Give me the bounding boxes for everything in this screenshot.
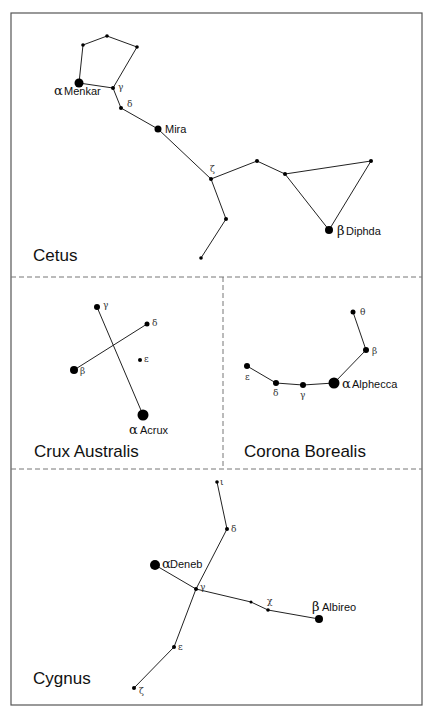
greek-letter-label: δ [152, 318, 157, 328]
star-delta [119, 106, 123, 110]
constellation-line [74, 324, 147, 370]
star-beta [325, 226, 333, 234]
greek-letter-label: ι [220, 477, 224, 487]
greek-letter-label: δ [273, 388, 278, 398]
constellation-title: Cetus [33, 246, 77, 265]
greek-letter-label: β [337, 223, 345, 238]
constellation-line [211, 161, 257, 179]
star-delta [225, 527, 229, 531]
star-gamma [94, 304, 100, 310]
star-iota [215, 480, 219, 484]
greek-letter-label: ζ [210, 164, 215, 174]
star-name-label: Albireo [322, 601, 356, 613]
star-name-label: Mira [165, 123, 187, 135]
constellation-line [285, 174, 329, 230]
star-x1 [250, 601, 253, 604]
constellation-cygnus: ιδαDenebγχβAlbireoεζCygnus [33, 477, 356, 696]
constellation-line [353, 312, 366, 350]
constellation-line [79, 45, 83, 83]
star-zeta [209, 177, 213, 181]
constellation-line [134, 647, 174, 688]
star-theta [351, 310, 356, 315]
star-chart: αMenkarγδMiraζβDiphdaCetusγδβεαAcruxCrux… [0, 0, 434, 713]
star-t1 [224, 217, 228, 221]
constellation-corona-borealis: θβαAlpheccaγδεCorona Borealis [244, 307, 398, 461]
star-c2 [283, 172, 287, 176]
greek-letter-label: θ [360, 307, 365, 317]
constellation-line [247, 366, 276, 383]
star-beta [70, 366, 78, 374]
greek-letter-label: ε [245, 372, 250, 382]
constellation-line [174, 589, 196, 647]
star-name-label: Acrux [140, 424, 169, 436]
greek-letter-label: δ [231, 524, 236, 534]
star-zeta [132, 686, 136, 690]
star-delta [145, 322, 150, 327]
star-alpha [150, 560, 160, 570]
constellation-crux-australis: γδβεαAcruxCrux Australis [34, 300, 169, 461]
star-mira [155, 126, 162, 133]
constellation-line [257, 161, 285, 174]
star-alpha [138, 410, 149, 421]
star-name-label: Menkar [64, 85, 101, 97]
star-gamma [111, 86, 115, 90]
greek-letter-label: γ [103, 300, 108, 310]
star-delta [273, 380, 279, 386]
constellation-line [211, 179, 226, 219]
star-c1 [255, 159, 259, 163]
star-name-label: Alphecca [352, 378, 398, 390]
star-gamma [300, 382, 306, 388]
constellation-line [251, 602, 268, 610]
constellation-line [217, 482, 227, 529]
greek-letter-label: β [372, 346, 377, 356]
star-p2 [105, 34, 109, 38]
star-gamma [194, 587, 198, 591]
greek-letter-label: α [342, 376, 351, 391]
constellation-line [97, 307, 143, 415]
star-beta [315, 615, 323, 623]
constellation-line [83, 36, 107, 45]
greek-letter-label: ε [178, 642, 183, 652]
greek-letter-label: ζ [139, 686, 144, 696]
greek-letter-label: β [312, 599, 320, 614]
constellation-line [276, 383, 303, 385]
greek-letter-label: δ [127, 99, 132, 109]
greek-letter-label: χ [267, 596, 273, 606]
constellation-line [285, 161, 371, 174]
greek-letter-label: γ [300, 390, 305, 400]
constellation-line [201, 219, 226, 258]
greek-letter-label: α [54, 83, 63, 98]
star-epsilon [172, 645, 176, 649]
constellation-panels: αMenkarγδMiraζβDiphdaCetusγδβεαAcruxCrux… [33, 34, 398, 696]
chart-frame [11, 13, 422, 705]
constellation-line [113, 47, 137, 88]
constellation-title: Cygnus [33, 669, 91, 688]
constellation-line [329, 161, 371, 230]
star-beta [363, 347, 369, 353]
greek-letter-label: α [129, 422, 138, 437]
star-p3 [135, 45, 139, 49]
star-name-label: Deneb [170, 558, 202, 570]
greek-letter-label: ε [144, 354, 149, 364]
star-p1 [81, 43, 85, 47]
star-t2 [199, 256, 203, 260]
greek-letter-label: β [80, 366, 85, 376]
greek-letter-label: γ [200, 582, 205, 592]
star-epsilon [244, 363, 250, 369]
star-alpha [329, 378, 340, 389]
constellation-title: Corona Borealis [244, 442, 366, 461]
greek-letter-label: γ [118, 82, 123, 92]
constellation-cetus: αMenkarγδMiraζβDiphdaCetus [33, 34, 382, 265]
star-c3 [369, 159, 373, 163]
constellation-line [107, 36, 137, 47]
star-name-label: Diphda [346, 225, 382, 237]
constellation-line [158, 129, 211, 179]
constellation-title: Crux Australis [34, 442, 139, 461]
star-epsilon [138, 358, 142, 362]
constellation-line [121, 108, 158, 129]
star-chi [266, 608, 270, 612]
